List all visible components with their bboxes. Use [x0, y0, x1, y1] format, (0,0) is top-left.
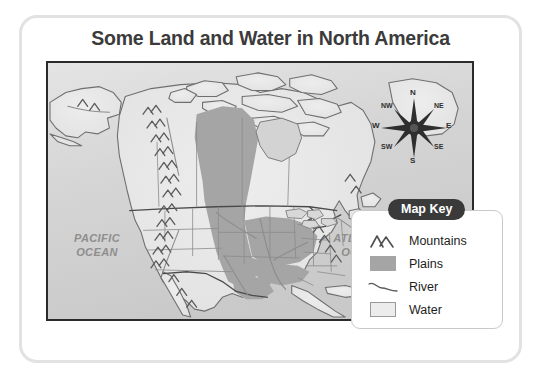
map-key-heading: Map Key [388, 199, 465, 220]
compass-label-se: SE [434, 143, 443, 150]
compass-label-w: W [372, 121, 380, 130]
compass-rose: N NE E SE S SW W NW [371, 88, 457, 168]
map-key-label-mountains: Mountains [409, 234, 467, 248]
compass-label-n: N [410, 88, 416, 97]
map-key-label-water: Water [409, 303, 442, 317]
map-key-label-river: River [409, 280, 438, 294]
pacific-line1: PACIFIC [74, 232, 120, 244]
mountains-icon [366, 231, 400, 250]
map-key-item-plains: Plains [352, 252, 502, 275]
map-key-label-plains: Plains [409, 257, 443, 271]
map-key-item-river: River [352, 275, 502, 298]
compass-label-sw: SW [381, 143, 392, 150]
map-key-panel: Map Key Mountains Plains [351, 210, 503, 329]
plains-swatch-icon [366, 254, 400, 273]
compass-label-e: E [446, 121, 451, 130]
page-title: Some Land and Water in North America [0, 27, 541, 50]
compass-label-ne: NE [434, 102, 444, 109]
map-key-item-mountains: Mountains [352, 229, 502, 252]
pacific-line2: OCEAN [76, 246, 118, 258]
compass-label-s: S [410, 156, 415, 165]
map-key-list: Mountains Plains River [352, 229, 502, 321]
screenshot-root: Some Land and Water in North America [0, 0, 541, 381]
compass-label-nw: NW [381, 102, 393, 109]
ocean-label-pacific: PACIFIC OCEAN [58, 231, 136, 259]
water-swatch-icon [366, 300, 400, 319]
river-icon [366, 277, 400, 296]
map-key-item-water: Water [352, 298, 502, 321]
